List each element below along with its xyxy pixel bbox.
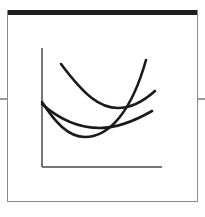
curve-plot xyxy=(0,0,205,217)
upper-curve xyxy=(61,64,155,108)
